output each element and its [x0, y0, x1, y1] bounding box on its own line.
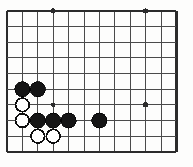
star-point-icon	[143, 8, 148, 13]
star-point-icon	[51, 103, 55, 107]
white-stone[interactable]	[46, 129, 60, 143]
black-stone[interactable]	[46, 113, 61, 128]
white-stone[interactable]	[16, 114, 30, 128]
black-stone[interactable]	[15, 82, 30, 97]
white-stone[interactable]	[16, 98, 30, 112]
go-board-grid[interactable]	[0, 0, 193, 167]
go-board-figure	[0, 0, 193, 167]
black-stone[interactable]	[30, 82, 45, 97]
star-point-icon	[51, 8, 56, 13]
star-point-icon	[143, 102, 148, 107]
black-stone[interactable]	[61, 113, 76, 128]
white-stone[interactable]	[31, 129, 45, 143]
black-stone[interactable]	[92, 113, 107, 128]
black-stone[interactable]	[30, 113, 45, 128]
